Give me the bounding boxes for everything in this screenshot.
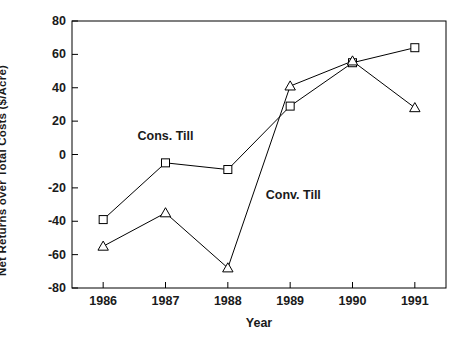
data-point-marker-square — [411, 44, 419, 52]
x-tick-label: 1986 — [73, 294, 133, 308]
x-tick-label: 1990 — [323, 294, 383, 308]
data-point-marker-square — [286, 102, 294, 110]
y-tick-label: 20 — [38, 115, 66, 128]
data-point-marker-square — [162, 159, 170, 167]
y-tick-label: -40 — [38, 215, 66, 228]
data-point-marker-square — [99, 216, 107, 224]
x-tick-label: 1991 — [385, 294, 445, 308]
x-axis-title: Year — [72, 316, 446, 330]
y-tick-label: 80 — [38, 15, 66, 28]
y-tick-label: 40 — [38, 82, 66, 95]
x-tick-label: 1989 — [260, 294, 320, 308]
y-tick-label: 0 — [38, 148, 66, 161]
plot-frame — [72, 21, 446, 288]
series-label-cons-till: Cons. Till — [137, 129, 193, 143]
y-tick-label: -20 — [38, 182, 66, 195]
chart-figure: Net Returns over Total Costs ($/Acre) 80… — [0, 0, 460, 341]
y-tick-label: 60 — [38, 48, 66, 61]
y-tick-label: -80 — [38, 282, 66, 295]
data-point-marker-square — [224, 166, 232, 174]
x-tick-label: 1988 — [198, 294, 258, 308]
y-tick-label: -60 — [38, 248, 66, 261]
series-label-conv-till: Conv. Till — [266, 188, 321, 202]
plot-area — [0, 0, 460, 341]
x-tick-label: 1987 — [136, 294, 196, 308]
